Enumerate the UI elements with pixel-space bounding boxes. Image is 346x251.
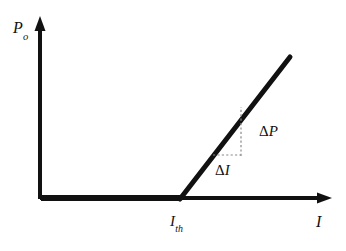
laser-li-curve-figure: Po I Ith ΔP ΔI [0,0,346,251]
delta-power-variable: P [269,123,278,139]
y-axis-label-subscript: o [23,31,28,42]
delta-symbol-power: Δ [259,123,269,139]
delta-current-variable: I [225,162,230,178]
threshold-current-label: Ith [170,214,183,232]
delta-current-label: ΔI [215,163,230,178]
x-axis-label-symbol: I [316,213,321,230]
x-axis-label: I [316,214,321,230]
y-axis-label: Po [13,20,28,40]
delta-power-label: ΔP [259,124,278,139]
y-axis-label-symbol: P [13,19,23,36]
y-axis-arrowhead [35,16,46,31]
threshold-label-subscript: th [175,223,183,234]
x-axis-arrowhead [317,193,332,204]
delta-symbol-current: Δ [215,162,225,178]
